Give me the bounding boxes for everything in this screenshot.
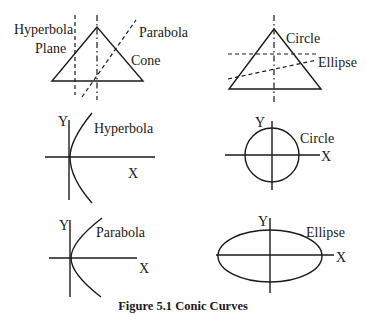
y-axis-label: Y [59, 218, 69, 233]
x-axis-label: X [336, 250, 346, 265]
y-axis-label: Y [58, 114, 68, 129]
label-parabola-curve: Parabola [96, 225, 146, 240]
y-axis-label: Y [258, 214, 268, 229]
hyperbola-plot: Y X Hyperbola [45, 113, 155, 203]
conic-curves-figure: Hyperbola Plane Parabola Cone Circle Ell… [0, 0, 366, 317]
label-plane: Plane [35, 41, 66, 56]
hyperbola-curve [70, 113, 92, 203]
circle-plot: Y X Circle [225, 115, 334, 190]
parabola-plane-line [82, 20, 136, 97]
ellipse-plot: Y X Ellipse [216, 214, 346, 293]
parabola-plot: Y X Parabola [49, 218, 149, 297]
label-circle-curve: Circle [300, 131, 334, 146]
cone-right-panel: Circle Ellipse [228, 15, 357, 102]
x-axis-label: X [321, 149, 331, 164]
label-cone: Cone [131, 53, 161, 68]
ellipse-plane-line [228, 60, 317, 79]
label-ellipse: Ellipse [318, 55, 357, 70]
label-hyperbola-curve: Hyperbola [94, 121, 154, 136]
y-axis-label: Y [255, 115, 265, 130]
x-axis-label: X [128, 166, 138, 181]
cone-left-panel: Hyperbola Plane Parabola Cone [14, 15, 189, 100]
label-hyperbola: Hyperbola [14, 22, 74, 37]
label-ellipse-curve: Ellipse [306, 225, 345, 240]
figure-caption: Figure 5.1 Conic Curves [118, 299, 248, 313]
x-axis-label: X [139, 261, 149, 276]
label-circle: Circle [286, 31, 320, 46]
label-parabola: Parabola [139, 25, 189, 40]
